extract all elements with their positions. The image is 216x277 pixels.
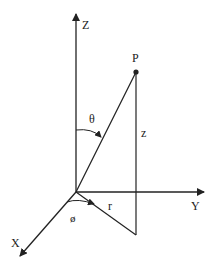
r-projection-line	[76, 192, 136, 235]
y-axis-label: Y	[191, 199, 200, 213]
radius-vector-op	[76, 72, 136, 192]
phi-label: ø	[70, 212, 76, 224]
z-axis-label: Z	[82, 18, 89, 32]
phi-arc	[67, 200, 94, 204]
r-label: r	[108, 199, 112, 213]
point-p-label: P	[132, 51, 139, 65]
theta-label: θ	[89, 112, 95, 126]
z-height-label: z	[141, 126, 146, 140]
coordinate-diagram: Z Y X P θ z r ø	[0, 0, 216, 277]
x-axis-label: X	[11, 236, 20, 250]
theta-arc	[76, 130, 101, 137]
